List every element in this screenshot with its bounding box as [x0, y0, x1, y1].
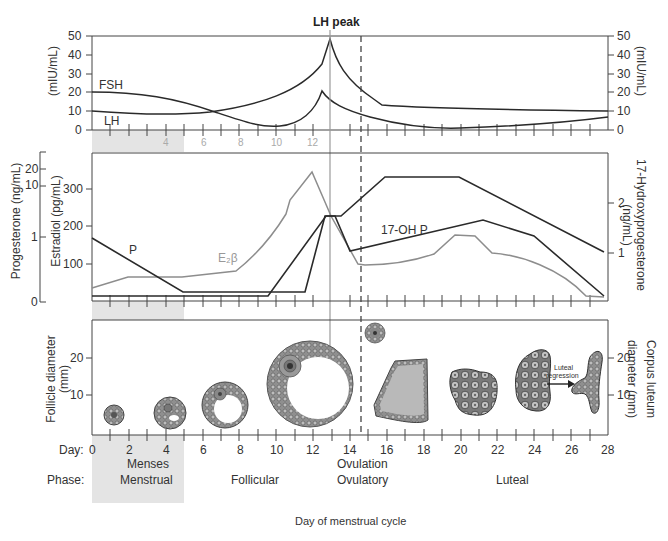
follicle-axis-label: Follicle diameter [44, 335, 58, 422]
day-2: 2 [126, 443, 133, 457]
progesterone-axis-label: Progesterone (ng/mL) [9, 163, 23, 280]
ytick-right-50: 50 [617, 29, 630, 43]
hw-tick-6: 6 [201, 137, 207, 148]
panel-gonadotropins [86, 36, 614, 136]
menses-shading-upper [92, 130, 184, 152]
panel1-ylabel-left: (mIU/mL) [46, 46, 60, 96]
ytick-20: 20 [68, 85, 81, 99]
panel-steroids [40, 152, 614, 307]
phase-row-label: Phase: [47, 473, 84, 487]
luteal-annotation-1: Luteal [554, 364, 573, 371]
corpus-luteum-day24 [516, 350, 551, 411]
day-22: 22 [491, 443, 504, 457]
p-tick-1: 1 [31, 230, 38, 244]
corpus-hemorrhagicum [374, 359, 428, 423]
x-axis-title: Day of menstrual cycle [295, 515, 406, 527]
e2-series-label: E₂β [218, 251, 238, 265]
day-axis-label: Day: [59, 443, 84, 457]
ohp-axis-units: (ng/mL) [620, 204, 634, 245]
p-series-label: P [129, 243, 137, 257]
day-16: 16 [380, 443, 393, 457]
day-26: 26 [565, 443, 578, 457]
day-28: 28 [601, 443, 614, 457]
day-0: 0 [89, 443, 96, 457]
follicle-day1 [104, 405, 124, 425]
hw-tick-4: 4 [163, 137, 169, 148]
panel1-ylabel-right: (mIU/mL) [634, 46, 648, 96]
lh-label: LH [104, 114, 119, 128]
day-8: 8 [237, 443, 244, 457]
phase-ovulatory: Ovulatory [337, 473, 388, 487]
ytick-right-30: 30 [617, 67, 630, 81]
lh-peak-title: LH peak [313, 15, 360, 29]
ovulated-oocyte [365, 323, 385, 343]
day-10: 10 [270, 443, 283, 457]
p-tick-20: 20 [25, 162, 38, 176]
follicle-dominant [267, 341, 353, 427]
follicle-day4 [154, 397, 186, 429]
e-tick-300: 300 [63, 182, 83, 196]
ytick-0: 0 [75, 123, 82, 137]
corpus-luteum-day21 [450, 369, 497, 415]
day-14: 14 [343, 443, 356, 457]
ohp-axis-label: 17-Hydroxyprogesterone [634, 159, 648, 291]
corpus-luteum-axis-label: Corpus luteum [644, 340, 658, 418]
day-18: 18 [417, 443, 430, 457]
e-tick-100: 100 [63, 257, 83, 271]
corpus-luteum-axis-units: diameter (mm) [625, 340, 639, 418]
follicle-tick-20: 20 [70, 351, 83, 365]
day-6: 6 [200, 443, 207, 457]
follicle-axis-units: (mm) [57, 365, 71, 393]
follicle-day7 [202, 382, 248, 428]
hw-tick-8: 8 [238, 137, 244, 148]
ytick-right-20: 20 [617, 85, 630, 99]
ytick-right-10: 10 [617, 104, 630, 118]
ytick-30: 30 [68, 67, 81, 81]
ytick-40: 40 [68, 48, 81, 62]
fsh-label: FSH [99, 78, 123, 92]
menses-label: Menses [127, 457, 169, 471]
ohp-series-label: 17-OH P [381, 223, 428, 237]
ytick-50: 50 [68, 29, 81, 43]
day-24: 24 [528, 443, 541, 457]
hw-tick-10: 10 [271, 137, 282, 148]
lh-curve [92, 39, 608, 114]
phase-menstrual: Menstrual [120, 473, 173, 487]
ovulation-label: Ovulation [337, 457, 388, 471]
p-tick-0: 0 [31, 295, 38, 309]
p-tick-10: 10 [25, 178, 38, 192]
luteal-annotation-2: regression [546, 372, 579, 379]
day-4: 4 [163, 443, 170, 457]
follicle-tick-10: 10 [70, 388, 83, 402]
day-20: 20 [454, 443, 467, 457]
ohp-tick-1: 1 [618, 246, 625, 260]
regressing-corpus-luteum [572, 351, 603, 413]
ytick-10: 10 [68, 104, 81, 118]
menses-shading-mid [92, 301, 184, 320]
estradiol-axis-label: Estradiol (pg/mL) [49, 175, 63, 266]
phase-luteal: Luteal [496, 473, 529, 487]
ytick-right-0: 0 [617, 123, 624, 137]
phase-follicular: Follicular [231, 473, 279, 487]
e-tick-200: 200 [63, 219, 83, 233]
luteal-regression-arrow [547, 380, 575, 388]
ytick-right-40: 40 [617, 48, 630, 62]
day-12: 12 [306, 443, 319, 457]
hw-tick-12: 12 [307, 137, 318, 148]
